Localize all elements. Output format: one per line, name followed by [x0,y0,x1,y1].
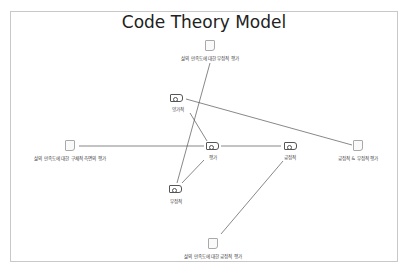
document-icon [353,140,363,151]
code-tag-icon [284,142,297,150]
node-label: 삶의 만족도에 대한 부정적 평가 [181,55,239,61]
node-label: 긍정적 [284,154,296,160]
node-label: 삶의 만족도에 대한 구체적 측면의 평가 [34,155,105,161]
node-label: 삶의 만족도에 대한 긍정적 평가 [184,253,242,259]
document-icon [205,40,215,51]
edge-negative-doc-to-negative-code [177,63,210,183]
code-tag-icon [170,94,183,102]
edge-evaluation-to-negative [182,160,204,183]
node-label: 평가 [209,154,217,160]
node-label: 부정적 [170,198,182,204]
document-icon [65,140,75,151]
code-tag-icon [169,185,182,193]
node-label: 양가적 [172,106,184,112]
edges-layer [0,0,408,278]
code-tag-icon [206,142,219,150]
node-label: 긍정적 & 부정적 평가 [338,155,378,161]
document-icon [208,238,218,249]
edge-ambivalent-to-posneg-doc [186,99,352,145]
edge-positive-to-positive-doc [221,161,283,234]
